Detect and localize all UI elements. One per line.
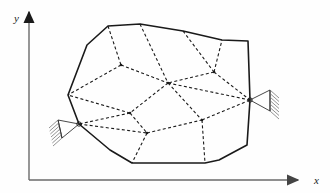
mesh-edges — [68, 24, 250, 163]
support-hatch-line — [270, 90, 279, 98]
support-hatch-line — [270, 97, 279, 105]
support-hatch-line — [52, 132, 61, 140]
support-hatch-line — [270, 94, 279, 102]
coordinate-axes: x y — [13, 12, 319, 186]
mesh-edge — [202, 100, 250, 120]
mesh-edge — [130, 113, 147, 133]
mesh-node — [167, 82, 170, 85]
support-triangle — [250, 90, 270, 111]
mesh-edge — [214, 40, 222, 72]
support-hatch-line — [270, 111, 279, 119]
support-right — [248, 90, 279, 119]
mesh-edge — [168, 72, 214, 83]
mesh-node — [213, 71, 216, 74]
mesh-nodes — [120, 64, 216, 135]
mesh-edge — [108, 26, 121, 65]
x-axis-label: x — [313, 174, 319, 186]
support-hatch-line — [51, 129, 60, 137]
mesh-edge — [132, 133, 147, 163]
mesh-edge — [140, 24, 168, 83]
mesh-edge — [202, 120, 205, 163]
mesh-node — [201, 119, 204, 122]
support-hatch-line — [50, 126, 59, 134]
mesh-edge — [130, 83, 168, 113]
mesh-edge — [68, 95, 130, 113]
body-outline — [68, 24, 250, 163]
support-hatch-line — [53, 138, 62, 146]
mesh-edge — [121, 65, 168, 83]
mesh-node — [146, 132, 149, 135]
figure-canvas: x y — [0, 0, 330, 193]
mesh-edge — [79, 113, 130, 124]
mesh-edge — [147, 120, 202, 133]
support-hatch-line — [52, 135, 61, 143]
mesh-node — [129, 112, 132, 115]
support-hatch-line — [270, 101, 279, 109]
support-hatch-line — [270, 104, 279, 112]
mesh-diagram: x y — [0, 0, 330, 193]
support-hatch-line — [49, 120, 58, 128]
mesh-edge — [68, 65, 121, 95]
mesh-edge — [168, 83, 250, 100]
support-hatch-line — [50, 123, 59, 131]
support-left — [49, 120, 81, 146]
y-axis-label: y — [13, 12, 19, 24]
mesh-node — [120, 64, 123, 67]
support-hatch-line — [270, 108, 279, 116]
